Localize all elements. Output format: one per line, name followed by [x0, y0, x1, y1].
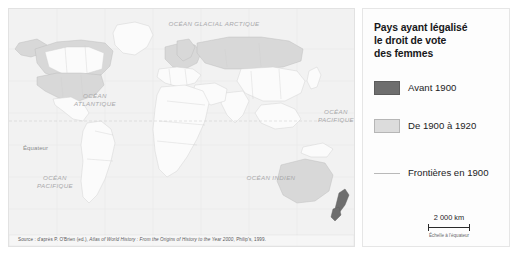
- map-figure: .land { fill:#fbfbfb; stroke:#cfcfcf; st…: [0, 0, 518, 255]
- legend-item-1900-to-1920[interactable]: De 1900 à 1920: [374, 119, 476, 133]
- scale-bar: 2 000 km Échelle à l'équateur: [413, 213, 485, 239]
- scale-bar-value: 2 000 km: [413, 213, 485, 222]
- legend-swatch-borders-1900: [374, 166, 400, 180]
- legend-title-line-2: le droit de vote: [374, 34, 504, 47]
- source-prefix: Source : d'après P. O'Brien (ed.),: [18, 237, 89, 242]
- legend-title-line-3: des femmes: [374, 47, 504, 60]
- legend-swatch-before-1900: [374, 81, 400, 95]
- scale-tick-right: [469, 224, 470, 231]
- map-panel[interactable]: .land { fill:#fbfbfb; stroke:#cfcfcf; st…: [8, 8, 355, 247]
- land-russia: [197, 37, 303, 69]
- scale-bar-line: [428, 227, 470, 228]
- scale-bar-ruler: [428, 224, 470, 231]
- legend-panel: Pays ayant légalisé le droit de vote des…: [362, 8, 510, 247]
- source-title: Atlas of World History : From the Origin…: [89, 237, 233, 242]
- source-caption: Source : d'après P. O'Brien (ed.), Atlas…: [18, 237, 266, 243]
- world-map-graphic: .land { fill:#fbfbfb; stroke:#cfcfcf; st…: [9, 9, 354, 246]
- legend-label-before-1900: Avant 1900: [408, 82, 456, 94]
- legend-title: Pays ayant légalisé le droit de vote des…: [374, 21, 504, 61]
- legend-swatch-1900-to-1920: [374, 119, 400, 133]
- legend-item-before-1900[interactable]: Avant 1900: [374, 81, 456, 95]
- legend-label-borders-1900: Frontières en 1900: [408, 167, 489, 179]
- scale-bar-caption: Échelle à l'équateur: [413, 233, 485, 239]
- legend-item-borders-1900[interactable]: Frontières en 1900: [374, 166, 489, 180]
- legend-label-1900-to-1920: De 1900 à 1920: [408, 120, 476, 132]
- legend-title-line-1: Pays ayant légalisé: [374, 21, 504, 34]
- source-suffix: , Philip's, 1999.: [233, 237, 266, 242]
